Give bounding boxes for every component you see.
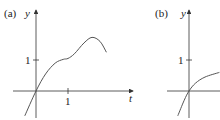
panel-a-x-label: t — [129, 92, 133, 104]
panel-b-y-label: y — [180, 7, 186, 19]
panel-a-x-tick-label: 1 — [65, 95, 71, 107]
panel-a: (a) y t 1 1 — [4, 7, 133, 118]
panel-a-label: (a) — [4, 7, 17, 20]
panel-b: (b) y 1 — [155, 7, 220, 118]
panel-a-y-label: y — [24, 7, 30, 19]
panel-b-curve — [178, 72, 220, 115]
figure: (a) y t 1 1 (b) y 1 — [0, 0, 220, 120]
panel-b-label: (b) — [155, 7, 168, 20]
panel-b-y-tick-label: 1 — [178, 54, 184, 66]
panel-a-y-tick-label: 1 — [25, 54, 31, 66]
